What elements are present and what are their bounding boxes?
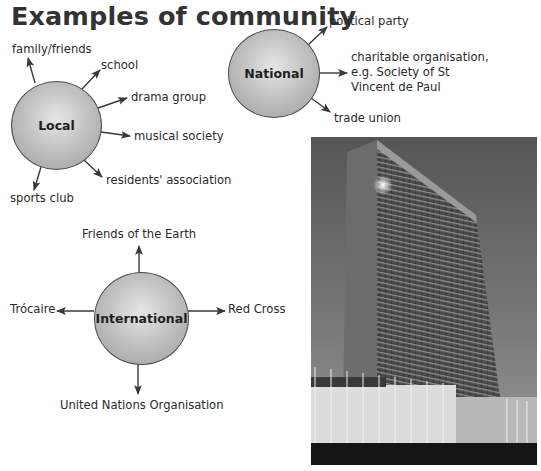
local-circle: Local: [11, 81, 102, 170]
national-circle: National: [228, 29, 320, 118]
label-residents-association: residents' association: [106, 173, 231, 188]
label-friends-of-the-earth: Friends of the Earth: [82, 227, 196, 242]
label-trade-union: trade union: [334, 111, 401, 126]
arrow-sports-club: [34, 167, 41, 190]
label-family-friends: family/friends: [12, 42, 92, 57]
arrow-family-friends: [28, 58, 35, 83]
label-charitable-line3: Vincent de Paul: [351, 80, 441, 95]
arrow-drama-group: [98, 98, 127, 108]
label-musical-society: musical society: [134, 129, 224, 144]
label-trocaire: Trócaire: [10, 302, 55, 317]
international-label: International: [96, 311, 188, 326]
un-building-illustration: [311, 137, 537, 465]
label-political-party: political party: [329, 14, 409, 29]
national-label: National: [244, 66, 303, 81]
label-united-nations: United Nations Organisation: [60, 398, 224, 413]
international-circle: International: [94, 272, 189, 365]
label-school: school: [101, 58, 138, 73]
arrow-residents-association: [84, 160, 102, 177]
arrow-musical-society: [101, 132, 130, 136]
local-label: Local: [38, 118, 75, 133]
arrow-political-party: [308, 27, 327, 45]
arrow-trade-union: [311, 98, 330, 112]
label-sports-club: sports club: [10, 191, 74, 206]
label-charitable-line2: e.g. Society of St: [351, 65, 450, 80]
label-charitable-line1: charitable organisation,: [351, 50, 489, 65]
arrow-school: [82, 70, 100, 89]
label-red-cross: Red Cross: [228, 302, 286, 317]
un-building-photo: [311, 137, 537, 465]
label-drama-group: drama group: [131, 90, 206, 105]
